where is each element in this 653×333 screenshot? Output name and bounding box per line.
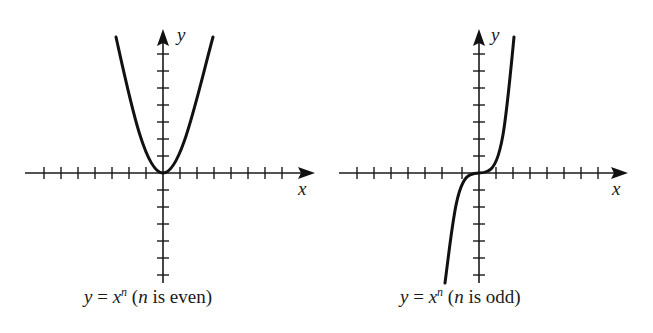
right-y-label: y [489, 24, 500, 45]
caption-condition: is odd [464, 286, 515, 307]
caption-lhs: y [400, 286, 408, 307]
caption-var: n [138, 286, 148, 307]
right-x-label: x [611, 178, 621, 199]
caption-close-paren: ) [206, 286, 212, 307]
left-graph: y x [25, 24, 315, 283]
caption-lhs: y [84, 286, 92, 307]
caption-equals: = [97, 286, 108, 307]
caption-exponent: n [437, 285, 443, 299]
left-caption: y = xn (n is even) [84, 286, 212, 308]
right-graph: y x [339, 24, 628, 283]
figure-canvas: y x [0, 0, 653, 333]
left-y-label: y [175, 24, 186, 45]
right-caption: y = xn (n is odd) [400, 286, 521, 308]
caption-equals: = [413, 286, 424, 307]
caption-exponent: n [121, 285, 127, 299]
caption-close-paren: ) [514, 286, 520, 307]
caption-var: n [454, 286, 464, 307]
caption-condition: is even [148, 286, 206, 307]
caption-base: x [113, 286, 121, 307]
caption-base: x [429, 286, 437, 307]
left-x-label: x [297, 178, 307, 199]
